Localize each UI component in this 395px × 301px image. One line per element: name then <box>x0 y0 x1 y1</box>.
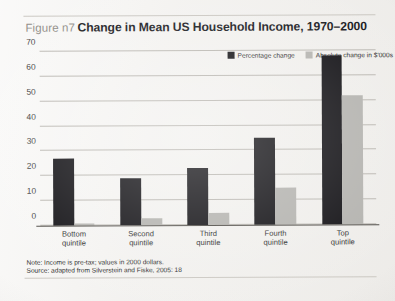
bar-group <box>53 158 95 225</box>
figure-container: Figure n7 Change in Mean US Household In… <box>0 0 395 301</box>
footnote-source: Source: adapted from Silverstein and Fis… <box>27 266 182 274</box>
y-axis-tick-20: 20 <box>27 161 36 171</box>
x-axis-label: Third quintile <box>175 229 242 247</box>
bar-percentage <box>120 178 141 225</box>
bar-absolute <box>275 187 296 224</box>
bottom-divider <box>25 276 377 279</box>
bar-group <box>120 178 162 225</box>
y-axis-tick-50: 50 <box>26 86 35 96</box>
bar-group <box>321 55 363 224</box>
footnote-note: Note: Income is pre-tax; values in 2000 … <box>26 258 163 266</box>
bar-percentage <box>53 158 74 225</box>
x-axis-label: Bottom quintile <box>40 229 107 247</box>
x-axis-label: Fourth quintile <box>242 229 309 247</box>
x-axis-label: Top quintile <box>309 228 376 246</box>
bar-percentage <box>254 138 275 225</box>
bar-group <box>187 168 229 225</box>
x-axis-label: Second quintile <box>108 229 175 247</box>
gridlines: 010203040506070 <box>40 50 376 51</box>
figure-title: Change in Mean US Household Income, 1970… <box>77 19 367 34</box>
y-axis-tick-70: 70 <box>26 37 35 47</box>
y-axis-tick-0: 0 <box>32 211 37 221</box>
bar-percentage <box>321 55 343 224</box>
bar-percentage <box>187 168 208 225</box>
gridline-70: 70 <box>40 49 376 51</box>
y-axis-tick-10: 10 <box>27 186 36 196</box>
figure-number-label: Figure n7 <box>25 22 75 34</box>
y-axis-tick-30: 30 <box>27 136 36 146</box>
x-axis-line <box>36 224 379 227</box>
top-divider <box>23 14 375 17</box>
bar-group <box>254 138 296 225</box>
figure-page: Figure n7 Change in Mean US Household In… <box>0 0 395 301</box>
chart-plot-area: 010203040506070 Bottom quintileSecond qu… <box>40 50 377 225</box>
bar-absolute <box>342 95 363 224</box>
y-axis-tick-60: 60 <box>26 62 35 72</box>
y-axis-tick-40: 40 <box>26 111 35 121</box>
bar-absolute <box>208 212 229 225</box>
